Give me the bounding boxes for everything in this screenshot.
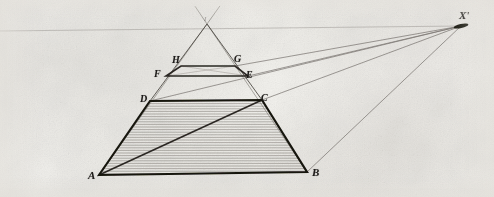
guide-F-to-G bbox=[166, 66, 235, 76]
label-apex: I bbox=[204, 16, 206, 23]
perspective-diagram-figure: I H G F E D C A B X' bbox=[0, 0, 494, 197]
label-e: E bbox=[246, 70, 253, 80]
label-a: A bbox=[88, 170, 95, 181]
label-c: C bbox=[261, 93, 268, 103]
side-guide-lines-group bbox=[99, 6, 307, 175]
label-b: B bbox=[312, 167, 319, 178]
horizon-line bbox=[0, 26, 461, 31]
upper-triangle-outline bbox=[150, 24, 262, 101]
ray-B-to-vanishing-point bbox=[307, 26, 461, 172]
label-d: D bbox=[140, 94, 147, 104]
label-h: H bbox=[172, 55, 180, 65]
diagram-drawing bbox=[0, 0, 494, 197]
label-vanishing-point: X' bbox=[459, 10, 469, 21]
vanishing-point-mark bbox=[453, 22, 469, 29]
ray-C-to-vanishing-point bbox=[262, 26, 461, 100]
ray-G-to-vanishing-point bbox=[235, 26, 461, 66]
ray-E-to-vanishing-point bbox=[248, 26, 461, 76]
trapezoid-hatching bbox=[0, 101, 494, 174]
label-g: G bbox=[234, 54, 241, 64]
label-f: F bbox=[154, 69, 161, 79]
